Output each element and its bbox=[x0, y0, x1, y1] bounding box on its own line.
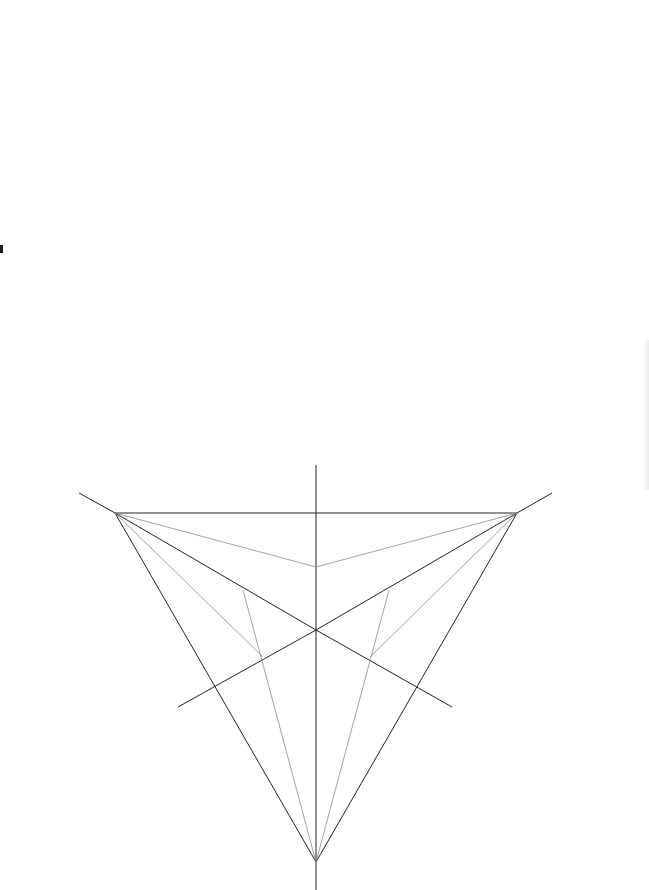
vp-left-to-lower-left bbox=[115, 513, 263, 657]
vp-left-to-center bbox=[115, 513, 316, 630]
vp-left-to-cube-top bbox=[115, 513, 316, 567]
vp-right-to-center bbox=[316, 513, 517, 630]
horizon-line-right bbox=[316, 513, 517, 862]
extension-right-vp bbox=[517, 493, 552, 513]
page-edge-shadow bbox=[643, 340, 649, 490]
vp-right-to-lower-right bbox=[370, 513, 517, 657]
vp-bottom-to-upper-right bbox=[316, 590, 389, 862]
figure-bottom-three-point bbox=[79, 465, 552, 890]
extension-left-vp bbox=[79, 493, 115, 513]
vp-bottom-to-upper-left bbox=[243, 590, 316, 862]
horizon-line-left bbox=[115, 513, 316, 862]
cv-axis-right bbox=[316, 630, 452, 707]
diagram-canvas bbox=[0, 0, 649, 890]
figure-top-left bbox=[0, 0, 3, 253]
vp-right-to-cube-top bbox=[316, 513, 517, 567]
hl-marker bbox=[0, 245, 3, 253]
perspective-diagram-page bbox=[0, 0, 649, 890]
